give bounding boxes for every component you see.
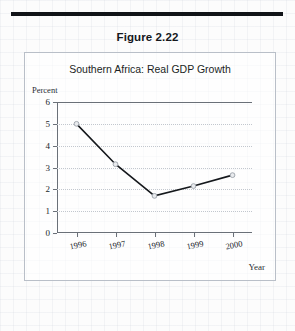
y-tick-label: 3	[46, 163, 51, 173]
series-data-point	[191, 184, 196, 189]
series-line	[77, 124, 233, 196]
y-tick-label: 2	[46, 184, 51, 194]
plot-area: 0123456 19961997199819992000	[57, 102, 252, 233]
x-tick-mark	[233, 233, 234, 237]
x-tick-label: 1998	[146, 238, 165, 251]
y-tick-label: 1	[46, 206, 51, 216]
top-rule-divider	[11, 12, 283, 16]
x-tick-mark	[77, 233, 78, 237]
x-tick-mark	[116, 233, 117, 237]
figure-number-title: Figure 2.22	[0, 31, 295, 43]
series-data-point	[152, 193, 157, 198]
y-tick-label: 4	[46, 141, 51, 151]
x-tick-label: 1997	[107, 238, 126, 251]
line-series-chart	[57, 102, 252, 233]
x-tick-mark	[155, 233, 156, 237]
series-data-point	[113, 162, 118, 167]
y-axis-label: Percent	[32, 85, 58, 95]
y-tick-label: 5	[46, 119, 51, 129]
y-tick-mark	[53, 233, 57, 234]
series-data-point	[230, 173, 235, 178]
chart-frame: Southern Africa: Real GDP Growth Percent…	[24, 52, 276, 281]
x-tick-label: 1999	[185, 238, 204, 251]
x-tick-label: 2000	[224, 238, 243, 251]
x-tick-mark	[194, 233, 195, 237]
x-tick-label: 1996	[68, 238, 87, 251]
series-data-point	[74, 121, 79, 126]
y-tick-label: 6	[46, 97, 51, 107]
x-axis-label: Year	[248, 262, 265, 272]
chart-title: Southern Africa: Real GDP Growth	[25, 63, 275, 75]
y-tick-label: 0	[46, 228, 51, 238]
page-background: Figure 2.22 Southern Africa: Real GDP Gr…	[0, 0, 295, 331]
